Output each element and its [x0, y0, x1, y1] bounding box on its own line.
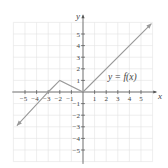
- y-tick-label: 4: [77, 42, 81, 50]
- y-tick-label: 5: [77, 31, 81, 39]
- y-axis-label: y: [75, 11, 80, 21]
- y-tick-label: −5: [73, 147, 81, 155]
- x-tick-label: −2: [55, 95, 63, 103]
- y-tick-label: −1: [73, 100, 81, 108]
- x-tick-label: −4: [31, 95, 39, 103]
- x-tick-label: 4: [128, 95, 132, 103]
- x-axis-label: x: [157, 91, 162, 101]
- x-tick-label: 2: [104, 95, 108, 103]
- x-tick-label: −5: [20, 95, 28, 103]
- y-tick-label: 1: [77, 77, 81, 85]
- y-tick-label: 2: [77, 65, 81, 73]
- y-tick-label: −4: [73, 135, 81, 143]
- y-tick-label: 3: [77, 54, 81, 62]
- x-tick-label: 1: [93, 95, 97, 103]
- axes: [12, 14, 157, 164]
- x-tick-label: 3: [116, 95, 120, 103]
- y-tick-label: −2: [73, 112, 81, 120]
- function-label: y = f(x): [107, 72, 137, 83]
- y-tick-label: −3: [73, 123, 81, 131]
- ticks: −5−4−3−2−112345−5−4−3−2−112345: [20, 31, 143, 155]
- x-tick-label: 5: [139, 95, 143, 103]
- function-graph: −5−4−3−2−112345−5−4−3−2−112345 x y y = f…: [0, 0, 168, 168]
